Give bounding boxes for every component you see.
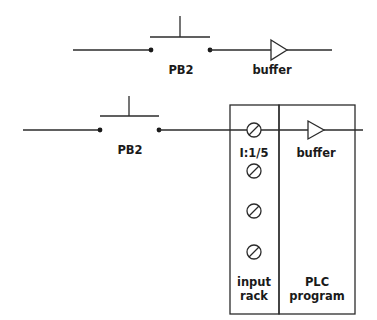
plc-program-label-line2: program [289, 289, 344, 303]
buffer-label-bottom: buffer [296, 146, 336, 160]
input-rack: I:1/5 input rack [230, 105, 279, 314]
top-circuit: PB2 buffer [73, 16, 332, 77]
plc-program: buffer PLC program [261, 105, 363, 314]
pushbutton-pb2-top [73, 16, 212, 52]
switch-contact-left-top [149, 48, 154, 53]
pb2-label-top: PB2 [168, 63, 193, 77]
terminal-screw-icon [247, 123, 261, 137]
buffer-label-top: buffer [252, 63, 292, 77]
buffer-icon-bottom [308, 121, 324, 139]
plc-program-label-line1: PLC [305, 275, 329, 289]
terminal-address-label: I:1/5 [239, 146, 268, 160]
input-rack-label-line2: rack [240, 289, 268, 303]
terminal-screw-icon [247, 164, 261, 178]
bottom-circuit: PB2 I:1/5 [23, 96, 363, 314]
plc-wiring-diagram: PB2 buffer PB2 I:1/5 [0, 0, 377, 320]
pushbutton-pb2-bottom [23, 96, 161, 132]
switch-contact-left-bottom [98, 128, 103, 133]
terminal-screw-icon [247, 245, 261, 259]
input-rack-label-line1: input [237, 275, 272, 289]
pb2-label-bottom: PB2 [117, 143, 142, 157]
buffer-icon-top [271, 40, 287, 60]
terminal-screw-icon [247, 204, 261, 218]
